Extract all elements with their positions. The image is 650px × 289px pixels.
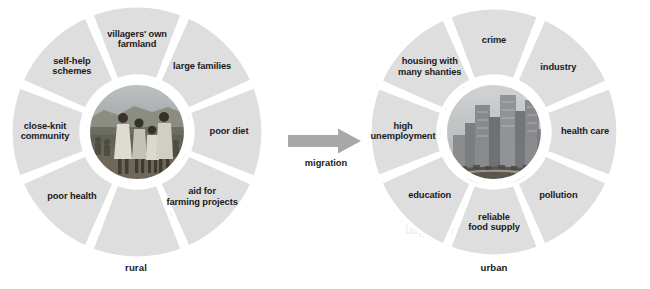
figure-canvas: more common Mass of uncommon common as a…: [0, 0, 650, 289]
wheel-segment-label: health care: [561, 126, 609, 136]
wheel-segment-label: industry: [540, 62, 577, 72]
migration-label: migration: [281, 158, 371, 168]
wheel-segment-label: close-knitcommunity: [21, 121, 71, 142]
arrow-right-icon: [288, 128, 362, 154]
wheel-segment-label: pollution: [539, 191, 578, 201]
wheel-segment-label: housing withmany shanties: [398, 57, 461, 78]
wheel-segment-label: education: [408, 191, 451, 201]
migration-connector: [288, 128, 362, 158]
urban-wheel: crimeindustryhealth carepollutionreliabl…: [365, 7, 623, 257]
rural-wheel: villagers' ownfarmlandlarge familiespoor…: [6, 7, 268, 257]
rural-caption: rural: [96, 262, 176, 273]
wheel-segment-label: poor health: [47, 192, 97, 202]
wheel-segment-label: large families: [173, 61, 231, 71]
urban-caption: urban: [454, 262, 534, 273]
wheel-segment-label: crime: [482, 35, 506, 45]
wheel-segment-label: self-helpschemes: [52, 56, 91, 77]
wheel-segment-label: poor diet: [210, 126, 249, 136]
